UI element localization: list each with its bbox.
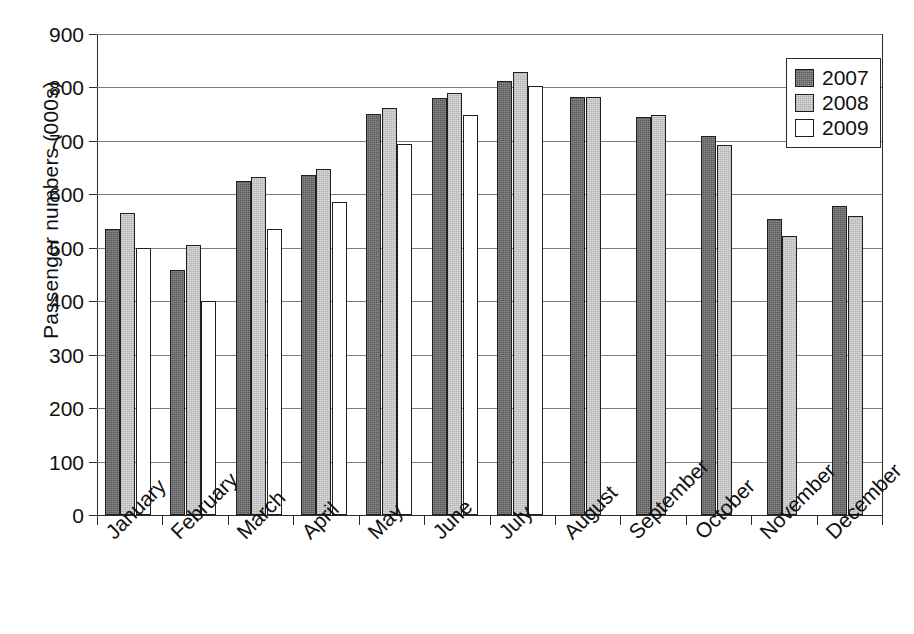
x-axis-tick [686, 515, 687, 525]
bar[interactable] [251, 177, 266, 515]
bar[interactable] [236, 181, 251, 515]
y-axis-tick-label: 800 [49, 76, 84, 100]
x-axis-tick [162, 515, 163, 525]
bar[interactable] [186, 245, 201, 515]
bar[interactable] [848, 216, 863, 515]
x-axis-tick [359, 515, 360, 525]
dark-gray-swatch [795, 69, 814, 87]
bar[interactable] [136, 248, 151, 515]
x-axis-tick [424, 515, 425, 525]
bar[interactable] [528, 86, 543, 515]
legend-item-label: 2009 [822, 117, 869, 138]
bar-group [490, 34, 555, 515]
y-axis-tick-label: 700 [49, 130, 84, 154]
bar[interactable] [301, 175, 316, 515]
bar[interactable] [782, 236, 797, 516]
y-axis-tick: 500 [89, 248, 97, 249]
x-axis-tick [555, 515, 556, 525]
bar[interactable] [651, 115, 666, 515]
plot-right-edge [882, 34, 883, 515]
y-axis-tick-label: 500 [49, 237, 84, 261]
bar[interactable] [586, 97, 601, 515]
x-axis-tick [620, 515, 621, 525]
chart-canvas: Passenger numbers (000s) 010020030040050… [0, 0, 914, 634]
bar-group [620, 34, 685, 515]
bar-group [97, 34, 162, 515]
bar[interactable] [432, 98, 447, 515]
legend-item-label: 2008 [822, 92, 869, 113]
legend[interactable]: 200720082009 [786, 58, 881, 148]
x-axis-tick [751, 515, 752, 525]
legend-item[interactable]: 2008 [795, 90, 872, 115]
bar[interactable] [170, 270, 185, 515]
bar-group [162, 34, 227, 515]
legend-item-label: 2007 [822, 67, 869, 88]
bar-group [555, 34, 620, 515]
y-axis-tick: 800 [89, 87, 97, 88]
y-axis-tick-label: 0 [72, 504, 84, 528]
y-axis-tick: 900 [89, 34, 97, 35]
bar[interactable] [447, 93, 462, 515]
bar[interactable] [513, 72, 528, 515]
bar[interactable] [463, 115, 478, 515]
y-axis-tick-label: 300 [49, 344, 84, 368]
y-axis-tick-label: 400 [49, 290, 84, 314]
y-axis-tick-label: 600 [49, 183, 84, 207]
x-axis-tick [293, 515, 294, 525]
bar[interactable] [636, 117, 651, 515]
bar[interactable] [701, 136, 716, 515]
x-axis-tick [97, 515, 98, 525]
y-axis-tick-label: 100 [49, 451, 84, 475]
white-swatch [795, 119, 814, 137]
bar[interactable] [570, 97, 585, 515]
y-axis-tick: 200 [89, 408, 97, 409]
bar[interactable] [316, 169, 331, 515]
bar[interactable] [382, 108, 397, 515]
bar[interactable] [120, 213, 135, 515]
bar[interactable] [332, 202, 347, 515]
x-axis-tick [882, 515, 883, 525]
bar[interactable] [717, 145, 732, 515]
y-axis-tick-label: 900 [49, 23, 84, 47]
bar-group [228, 34, 293, 515]
x-axis-tick [490, 515, 491, 525]
bar-series-area [97, 34, 882, 515]
y-axis-tick: 600 [89, 194, 97, 195]
bar[interactable] [497, 81, 512, 515]
plot-area: 0100200300400500600700800900 [97, 34, 882, 515]
bar[interactable] [366, 114, 381, 515]
y-axis-tick: 300 [89, 355, 97, 356]
bar[interactable] [397, 144, 412, 515]
x-axis-tick [817, 515, 818, 525]
legend-item[interactable]: 2009 [795, 115, 872, 140]
light-gray-swatch [795, 94, 814, 112]
bar-group [686, 34, 751, 515]
bar[interactable] [267, 229, 282, 515]
bar-group [424, 34, 489, 515]
y-axis-tick: 100 [89, 462, 97, 463]
bar[interactable] [105, 229, 120, 515]
y-axis-tick: 400 [89, 301, 97, 302]
legend-item[interactable]: 2007 [795, 65, 872, 90]
bar-group [293, 34, 358, 515]
bar-group [359, 34, 424, 515]
x-axis-tick [228, 515, 229, 525]
y-axis-tick: 0 [89, 515, 97, 516]
bar[interactable] [767, 219, 782, 515]
y-axis-tick: 700 [89, 141, 97, 142]
x-axis-labels: JanuaryFebruaryMarchAprilMayJuneJulyAugu… [97, 527, 882, 634]
y-axis-tick-label: 200 [49, 397, 84, 421]
